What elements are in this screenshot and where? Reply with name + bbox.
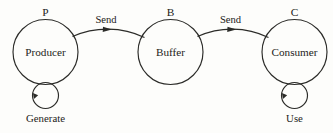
use-loop-label: Use <box>286 112 303 124</box>
generate-loop-label: Generate <box>26 112 65 124</box>
generate-loop-arrowhead <box>33 93 38 99</box>
node-consumer: C Consumer <box>262 6 327 85</box>
self-loop-generate: Generate <box>26 83 65 125</box>
buffer-to-consumer-arrowhead <box>227 27 236 32</box>
edge-buffer-to-consumer: Send <box>198 14 269 38</box>
process-diagram: P Producer Generate Send B Buffer Send <box>0 0 333 133</box>
use-loop-arrowhead <box>282 93 287 99</box>
producer-to-buffer-arrowhead <box>103 27 112 32</box>
producer-tag: P <box>42 6 48 18</box>
self-loop-use: Use <box>282 83 308 125</box>
producer-label: Producer <box>25 46 66 58</box>
buffer-tag: B <box>167 6 175 18</box>
buffer-to-consumer-label: Send <box>220 14 242 25</box>
edge-producer-to-buffer: Send <box>73 14 145 38</box>
buffer-label: Buffer <box>156 46 185 58</box>
node-buffer: B Buffer <box>138 6 203 85</box>
producer-to-buffer-label: Send <box>95 14 117 25</box>
consumer-label: Consumer <box>272 46 318 58</box>
consumer-tag: C <box>291 6 299 18</box>
node-producer: P Producer <box>13 6 78 85</box>
